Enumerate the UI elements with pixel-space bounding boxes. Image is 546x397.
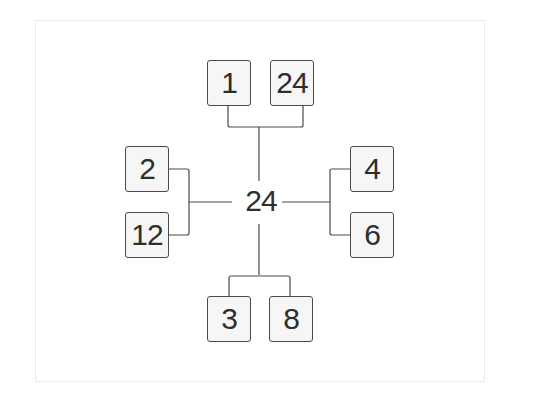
top-factor-box-1: 1 xyxy=(207,60,251,106)
top-factor-box-2: 24 xyxy=(270,60,314,106)
factor-value: 6 xyxy=(364,218,380,252)
left-factor-box-1: 2 xyxy=(125,146,169,192)
factor-value: 12 xyxy=(131,218,162,252)
factor-value: 24 xyxy=(276,66,307,100)
factor-value: 4 xyxy=(364,152,380,186)
factor-value: 1 xyxy=(221,66,237,100)
bottom-factor-box-1: 3 xyxy=(207,296,251,342)
right-factor-box-2: 6 xyxy=(350,212,394,258)
factor-value: 8 xyxy=(283,302,299,336)
center-number: 24 xyxy=(238,183,284,219)
bottom-factor-box-2: 8 xyxy=(269,296,313,342)
factor-value: 2 xyxy=(139,152,155,186)
left-factor-box-2: 12 xyxy=(125,212,169,258)
right-factor-box-1: 4 xyxy=(350,146,394,192)
factor-value: 3 xyxy=(221,302,237,336)
